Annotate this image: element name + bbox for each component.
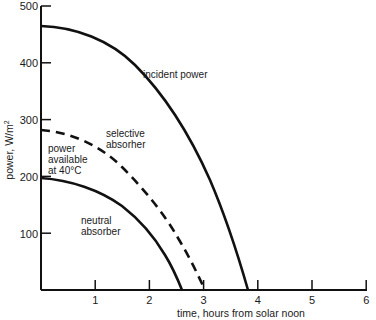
- svg-text:at 40°C: at 40°C: [48, 165, 81, 176]
- svg-text:3: 3: [201, 294, 207, 306]
- y-ticks: [41, 6, 51, 233]
- x-axis-title: time, hours from solar noon: [177, 307, 305, 319]
- svg-text:4: 4: [255, 294, 261, 306]
- y-axis-title: power, W/m2: [3, 120, 15, 179]
- svg-text:power: power: [48, 143, 76, 154]
- label-incident-power: incident power: [143, 69, 208, 80]
- x-tick-labels: 1 2 3 4 5 6: [92, 294, 369, 306]
- svg-text:neutral: neutral: [81, 215, 112, 226]
- x-ticks: [95, 280, 366, 290]
- y-tick-labels: 500 400 300 200 100: [20, 0, 38, 240]
- svg-text:available: available: [48, 154, 88, 165]
- svg-text:selective: selective: [106, 128, 145, 139]
- svg-text:100: 100: [20, 228, 38, 240]
- svg-text:200: 200: [20, 171, 38, 183]
- svg-text:absorber: absorber: [81, 226, 121, 237]
- svg-text:2: 2: [146, 294, 152, 306]
- svg-text:6: 6: [363, 294, 369, 306]
- label-selective-absorber: selective absorher: [106, 128, 146, 150]
- svg-text:500: 500: [20, 0, 38, 12]
- svg-text:300: 300: [20, 114, 38, 126]
- label-neutral-absorber: neutral absorber: [81, 215, 121, 237]
- svg-text:1: 1: [92, 294, 98, 306]
- svg-text:400: 400: [20, 57, 38, 69]
- svg-text:absorher: absorher: [106, 139, 146, 150]
- label-power-available: power available at 40°C: [48, 143, 88, 176]
- chart: 500 400 300 200 100 1 2 3 4 5 6 time, ho…: [0, 0, 376, 320]
- svg-text:5: 5: [309, 294, 315, 306]
